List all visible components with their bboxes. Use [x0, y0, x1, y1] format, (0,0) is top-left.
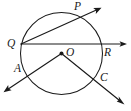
ray-q-to-p	[21, 10, 98, 44]
ray-o-to-c	[62, 54, 121, 102]
center-label-o: O	[66, 47, 74, 59]
center-point-dot	[60, 52, 64, 56]
circle-geometry-figure: P Q R A C O	[0, 0, 131, 111]
arrowhead-lower-left-icon	[4, 85, 12, 92]
arrowhead-lower-right-icon	[117, 96, 125, 104]
point-label-p: P	[74, 1, 81, 13]
point-label-a: A	[14, 63, 21, 75]
point-label-c: C	[100, 72, 108, 84]
point-label-q: Q	[7, 38, 15, 50]
point-label-r: R	[104, 47, 111, 59]
